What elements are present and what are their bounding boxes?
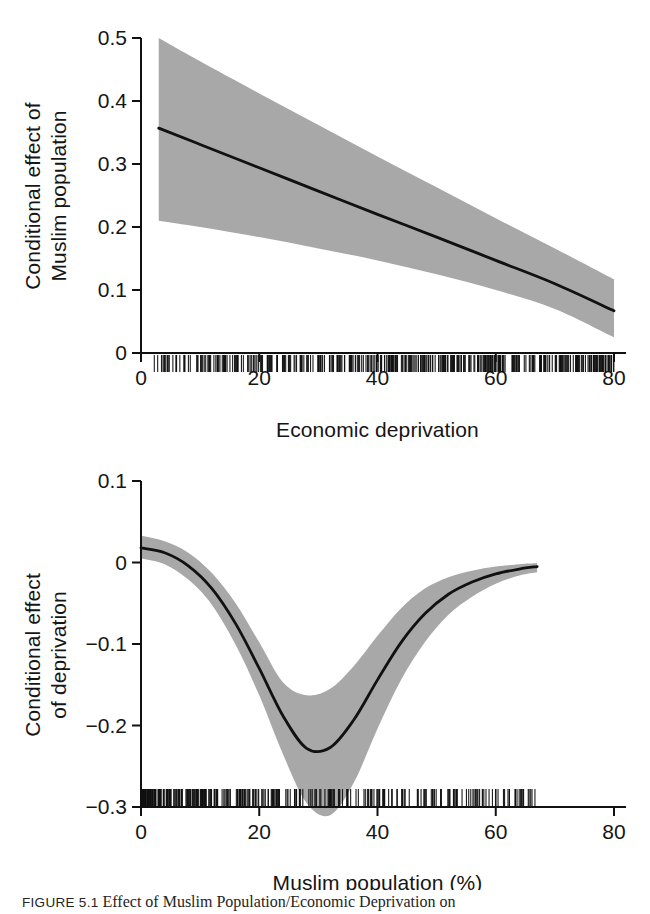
x-axis-title: Economic deprivation [276,418,479,441]
y-axis-title-line: Conditional effect [21,573,44,737]
x-tick-label: 80 [602,820,625,843]
figure-container: 00.10.20.30.40.5020406080Economic depriv… [0,0,650,914]
y-axis-title-line: Muslim population [47,111,70,282]
x-tick-label: 0 [135,366,147,389]
y-tick-label: 0 [115,341,127,364]
y-tick-label: 0.5 [98,26,127,49]
y-tick-label: 0.1 [98,278,127,301]
figure-caption-tag: FIGURE 5.1 [22,895,99,910]
chart-panel-bottom: −0.3−0.2−0.100.1020406080Muslim populati… [0,450,650,890]
figure-caption: FIGURE 5.1 Effect of Muslim Population/E… [22,893,642,911]
bottom-panel-plot: −0.3−0.2−0.100.1020406080Muslim populati… [0,450,650,890]
y-tick-label: 0 [115,551,127,574]
confidence-band [159,38,614,337]
x-tick-label: 0 [135,820,147,843]
top-panel-group: 00.10.20.30.40.5020406080Economic depriv… [21,26,626,441]
y-axis-title-line: Conditional effect of [21,102,44,289]
y-tick-label: 0.4 [98,89,128,112]
top-panel-plot: 00.10.20.30.40.5020406080Economic depriv… [0,0,650,455]
y-tick-label: −0.1 [86,632,127,655]
y-tick-label: 0.2 [98,215,127,238]
x-tick-label: 60 [484,820,507,843]
x-tick-label: 20 [248,820,271,843]
rug-plot [154,355,613,372]
rug-plot [141,789,535,806]
y-tick-label: −0.2 [86,714,127,737]
bottom-panel-group: −0.3−0.2−0.100.1020406080Muslim populati… [21,469,626,890]
y-tick-label: 0.1 [98,469,127,492]
y-tick-label: 0.3 [98,152,127,175]
x-tick-label: 40 [366,820,389,843]
chart-panel-top: 00.10.20.30.40.5020406080Economic depriv… [0,0,650,455]
figure-caption-text: Effect of Muslim Population/Economic Dep… [103,893,456,910]
y-tick-label: −0.3 [86,795,127,818]
y-axis-title: Conditional effectof deprivation [21,573,70,737]
x-axis-title: Muslim population (%) [273,871,483,890]
y-axis-title: Conditional effect ofMuslim population [21,102,70,289]
y-axis-title-line: of deprivation [47,591,70,718]
